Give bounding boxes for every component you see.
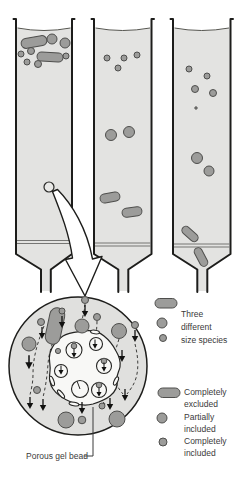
legend-inclusion-label: Completely: [184, 387, 227, 397]
small-particle: [35, 61, 42, 68]
small-particle: [63, 53, 69, 59]
small-particle-in-pore: [71, 343, 77, 349]
small-particle: [134, 52, 140, 58]
small-particle: [115, 65, 121, 71]
small-particle: [82, 297, 89, 304]
rod-legend-icon: [158, 388, 180, 398]
pore: [90, 338, 103, 351]
small-particle: [24, 59, 30, 65]
small-particle: [99, 403, 105, 409]
medium-particle: [204, 166, 214, 176]
small-particle: [34, 387, 41, 394]
small-particle: [94, 314, 101, 321]
medium-particle: [58, 412, 74, 428]
legend-species: Three different size species: [155, 299, 227, 346]
rod-legend-icon: [155, 299, 177, 309]
column-3: [171, 19, 234, 292]
tiny-particle: [195, 107, 197, 109]
figure-canvas: Porous gel bead Three different size spe…: [0, 0, 243, 479]
legend-species-line: Three: [181, 309, 203, 319]
small-particle: [121, 55, 127, 61]
column-2: [92, 19, 155, 292]
small-particle: [38, 319, 45, 326]
medium-particle: [124, 127, 135, 138]
small-particle: [55, 348, 60, 353]
medium-particle: [109, 411, 125, 427]
small-particle: [59, 308, 65, 314]
medium-particle: [112, 324, 127, 339]
small-circle-legend-icon: [159, 438, 167, 446]
legend-species-line: size species: [181, 335, 227, 345]
rod-particle: [37, 52, 64, 63]
bead-label: Porous gel bead: [26, 451, 88, 461]
legend-inclusion-label: Completely: [184, 436, 227, 446]
magnified-bead-pointer: [44, 182, 54, 192]
legend-inclusion: Completely excluded Partially included C…: [157, 387, 227, 458]
small-particle: [18, 51, 24, 57]
medium-circle-legend-icon: [157, 318, 167, 328]
small-particle: [78, 416, 86, 424]
medium-circle-legend-icon: [157, 413, 167, 423]
medium-particle: [192, 153, 203, 164]
column-2-liquid: [95, 29, 151, 292]
column-1-liquid: [17, 29, 71, 292]
legend-inclusion-label: excluded: [184, 399, 218, 409]
medium-particle: [60, 38, 70, 48]
legend-species-line: different: [181, 322, 212, 332]
medium-particle: [47, 34, 57, 44]
small-particle: [104, 55, 110, 61]
legend-inclusion-label: included: [184, 448, 216, 458]
column-1: [14, 19, 75, 292]
small-particle: [28, 48, 35, 55]
gel-filtration-figure: Porous gel bead Three different size spe…: [0, 0, 243, 479]
medium-particle: [106, 130, 117, 141]
small-particle: [192, 86, 199, 93]
small-particle-in-pore: [96, 382, 102, 388]
medium-particle: [75, 319, 89, 333]
inset-magnified-view: Porous gel bead: [9, 297, 147, 462]
small-particle: [210, 90, 217, 97]
medium-particle: [22, 337, 36, 351]
small-particle: [186, 66, 192, 72]
small-circle-legend-icon: [160, 335, 167, 342]
legend-inclusion-label: included: [184, 424, 216, 434]
small-particle: [204, 73, 210, 79]
small-particle: [132, 322, 139, 329]
legend-inclusion-label: Partially: [184, 412, 215, 422]
